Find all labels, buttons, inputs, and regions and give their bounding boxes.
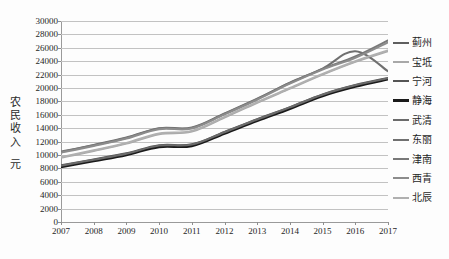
chart-legend: 蓟州宝坻宁河静海武清东丽津南西青北辰 — [393, 33, 449, 208]
x-axis-tickmark — [290, 222, 291, 225]
legend-swatch — [393, 197, 409, 199]
series-line — [61, 51, 388, 152]
legend-swatch — [393, 80, 409, 82]
x-axis-tickmark — [61, 222, 62, 225]
y-axis-tick-label: 24000 — [22, 57, 58, 66]
x-axis-tickmark — [159, 222, 160, 225]
legend-swatch — [393, 177, 409, 179]
y-axis-tick-label: 26000 — [22, 43, 58, 52]
x-axis-tickmark — [355, 222, 356, 225]
y-axis-tick-label: 6000 — [22, 177, 58, 186]
x-axis-tickmark — [257, 222, 258, 225]
legend-label: 津南 — [412, 154, 432, 165]
series-line — [61, 42, 388, 152]
legend-item[interactable]: 武清 — [393, 111, 449, 130]
y-axis-tick-label: 30000 — [22, 17, 58, 26]
y-axis-tick-label: 20000 — [22, 84, 58, 93]
y-axis-tick-label: 16000 — [22, 110, 58, 119]
y-axis-title-main: 农民收入 — [10, 96, 21, 149]
y-axis-tick-label: 14000 — [22, 124, 58, 133]
y-axis-tick-label: 28000 — [22, 30, 58, 39]
legend-item[interactable]: 宁河 — [393, 72, 449, 91]
x-axis-tickmark — [126, 222, 127, 225]
y-axis-tick-label: 8000 — [22, 164, 58, 173]
y-axis-tick-label: 2000 — [22, 204, 58, 213]
x-axis-tickmark — [323, 222, 324, 225]
legend-label: 宝坻 — [412, 57, 432, 68]
legend-label: 蓟州 — [412, 37, 432, 48]
plot-area — [61, 21, 388, 222]
y-axis-tick-label: 22000 — [22, 70, 58, 79]
legend-swatch — [393, 139, 409, 141]
line-chart: 农民收入 元 300002800026000240002200020000180… — [0, 0, 449, 259]
legend-item[interactable]: 东丽 — [393, 130, 449, 149]
legend-item[interactable]: 蓟州 — [393, 33, 449, 52]
legend-item[interactable]: 静海 — [393, 91, 449, 110]
x-axis-tick-labels: 2007200820092010201120122013201420152016… — [61, 226, 388, 242]
legend-swatch — [393, 119, 409, 121]
series-lines — [61, 21, 388, 222]
legend-swatch — [393, 61, 409, 63]
legend-item[interactable]: 北辰 — [393, 188, 449, 207]
legend-label: 武清 — [412, 115, 432, 126]
y-axis-tick-label: 18000 — [22, 97, 58, 106]
x-axis-tickmark — [388, 222, 389, 225]
legend-label: 西青 — [412, 173, 432, 184]
y-axis-tick-label: 10000 — [22, 151, 58, 160]
x-axis-tickmark — [192, 222, 193, 225]
legend-item[interactable]: 西青 — [393, 169, 449, 188]
x-axis-tickmark — [94, 222, 95, 225]
legend-item[interactable]: 津南 — [393, 149, 449, 168]
legend-swatch — [393, 158, 409, 160]
legend-label: 静海 — [412, 95, 432, 106]
series-line — [61, 79, 388, 167]
y-axis-tick-label: 4000 — [22, 191, 58, 200]
legend-label: 东丽 — [412, 134, 432, 145]
x-axis-tick-label: 2017 — [368, 226, 408, 237]
x-axis-tickmark — [225, 222, 226, 225]
legend-swatch — [393, 42, 409, 44]
y-axis-tick-label: 12000 — [22, 137, 58, 146]
legend-label: 宁河 — [412, 76, 432, 87]
y-axis-tick-labels: 3000028000260002400022000200001800016000… — [22, 0, 58, 259]
legend-label: 北辰 — [412, 192, 432, 203]
legend-item[interactable]: 宝坻 — [393, 52, 449, 71]
legend-swatch — [393, 99, 409, 102]
